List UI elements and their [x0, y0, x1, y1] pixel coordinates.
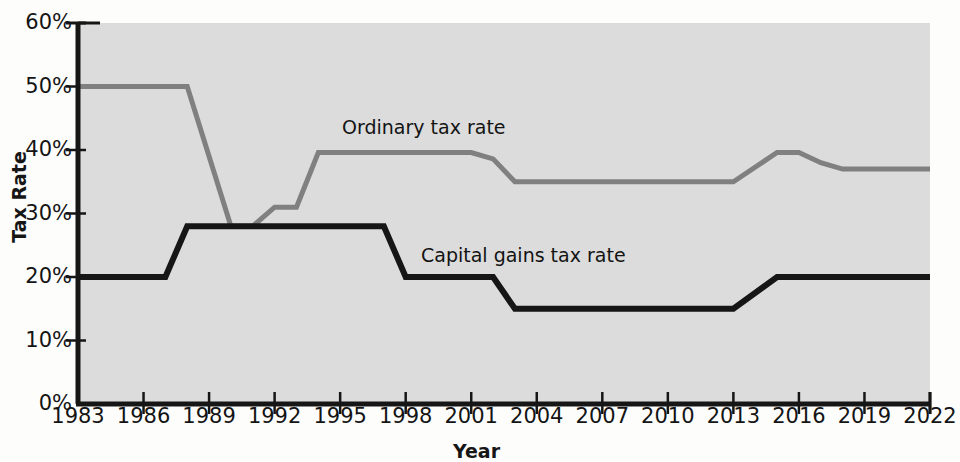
x-tick-label: 2022 — [890, 406, 960, 427]
series-label-ordinary-tax-rate: Ordinary tax rate — [342, 118, 506, 137]
y-tick-label: 30% — [6, 203, 72, 224]
x-axis-title: Year — [0, 440, 953, 462]
y-tick-label: 50% — [6, 76, 72, 97]
series-label-capital-gains-tax-rate: Capital gains tax rate — [421, 246, 626, 265]
plot-background — [78, 23, 930, 404]
y-tick-label: 20% — [6, 266, 72, 287]
y-tick-label: 10% — [6, 330, 72, 351]
y-tick-label: 40% — [6, 139, 72, 160]
y-axis-tick-labels: 0%10%20%30%40%50%60% — [0, 0, 72, 462]
y-tick-label: 60% — [6, 12, 72, 33]
